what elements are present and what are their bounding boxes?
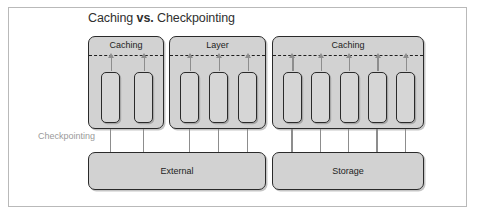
figure-title: Caching vs. Checkpointing [88,11,235,25]
checkpointing-label: Checkpointing [38,131,95,141]
cell-box[interactable] [101,72,120,123]
arrow-up-to-dashed [292,57,293,71]
cell-box[interactable] [340,72,359,123]
arrow-up-to-dashed [349,57,350,71]
cell-box[interactable] [238,72,257,123]
group-box-caching-0[interactable]: Caching [88,36,164,129]
title-tail: Checkpointing [154,11,235,25]
arrow-up-to-dashed [406,57,407,71]
arrow-up-to-dashed [219,57,220,71]
cell-box[interactable] [180,72,199,123]
cell-box[interactable] [283,72,302,123]
cell-box[interactable] [368,72,387,123]
arrow-up-to-dashed [111,57,112,71]
cell-box[interactable] [311,72,330,123]
arrow-up-to-dashed [144,57,145,71]
group-label: Caching [273,40,423,50]
cell-box[interactable] [134,72,153,123]
cell-box[interactable] [396,72,415,123]
arrow-up-to-dashed [248,57,249,71]
arrow-up-to-dashed [377,57,378,71]
arrow-up-to-dashed [321,57,322,71]
title-lead: Caching [88,11,137,25]
group-label: Caching [89,40,163,50]
figure-root: Caching vs. Checkpointing Checkpointing … [0,0,479,217]
dashed-boundary-line [89,55,163,56]
group-box-layer-1[interactable]: Layer [169,36,266,129]
sink-label: Storage [273,166,423,176]
title-emphasis: vs. [137,11,154,25]
cell-box[interactable] [209,72,228,123]
group-box-caching-2[interactable]: Caching [272,36,424,129]
group-label: Layer [170,40,265,50]
sink-label: External [89,166,265,176]
arrow-up-to-dashed [190,57,191,71]
sink-box-storage[interactable]: Storage [272,152,424,190]
sink-box-external[interactable]: External [88,152,266,190]
